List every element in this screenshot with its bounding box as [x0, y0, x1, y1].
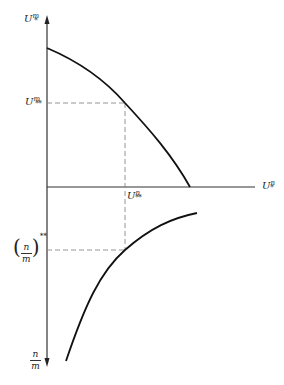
numerator: n: [33, 350, 39, 359]
paren-open: (: [13, 235, 21, 259]
arrowhead-up-icon: [45, 15, 50, 24]
vertical-axis-top-label: Um*: [24, 14, 37, 24]
horizontal-axis-label: Un*: [262, 181, 273, 191]
label-sub: **: [135, 193, 141, 202]
diagram-canvas: [0, 0, 284, 385]
denominator: m: [22, 255, 31, 264]
paren-close: ): [32, 235, 40, 259]
vertical-axis-bottom-label: nm: [30, 349, 41, 371]
denominator: m: [31, 362, 40, 371]
label-sub: *: [34, 16, 37, 25]
label-sub: *: [270, 183, 273, 192]
label-sub: **: [35, 99, 41, 108]
upper-reference-label: Um**: [25, 97, 41, 107]
numerator: n: [23, 243, 29, 252]
arrowhead-down-icon: [45, 358, 50, 367]
ratio-curve: [66, 213, 197, 361]
fraction: nm: [21, 243, 32, 264]
x-reference-label: Un**: [127, 191, 141, 201]
utility-frontier-curve: [47, 48, 190, 187]
fraction: nm: [30, 350, 41, 371]
label-sup: **: [40, 231, 47, 240]
lower-reference-label: (nm)**: [13, 237, 47, 264]
